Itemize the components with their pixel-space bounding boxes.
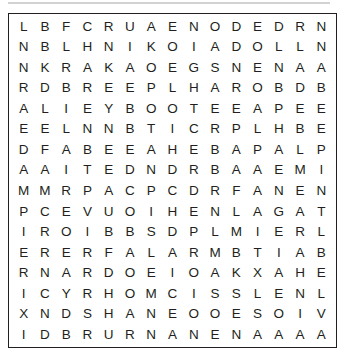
grid-cell[interactable]: H xyxy=(98,304,119,325)
grid-cell[interactable]: I xyxy=(13,222,34,243)
grid-cell[interactable]: T xyxy=(77,160,98,181)
grid-cell[interactable]: L xyxy=(56,37,77,58)
grid-cell[interactable]: B xyxy=(34,37,55,58)
grid-cell[interactable]: R xyxy=(77,263,98,284)
grid-cell[interactable]: B xyxy=(98,222,119,243)
grid-cell[interactable]: B xyxy=(289,119,310,140)
grid-cell[interactable]: S xyxy=(204,57,225,78)
grid-cell[interactable]: K xyxy=(34,57,55,78)
grid-cell[interactable]: X xyxy=(13,304,34,325)
grid-cell[interactable]: A xyxy=(77,57,98,78)
grid-cell[interactable]: B xyxy=(226,242,247,263)
grid-cell[interactable]: C xyxy=(77,16,98,37)
grid-cell[interactable]: U xyxy=(119,16,140,37)
grid-cell[interactable]: O xyxy=(162,37,183,58)
grid-cell[interactable]: E xyxy=(247,16,268,37)
grid-cell[interactable]: I xyxy=(289,304,310,325)
grid-cell[interactable]: T xyxy=(183,98,204,119)
grid-cell[interactable]: L xyxy=(247,119,268,140)
grid-cell[interactable]: B xyxy=(56,324,77,345)
grid-cell[interactable]: N xyxy=(77,119,98,140)
grid-cell[interactable]: A xyxy=(247,201,268,222)
grid-cell[interactable]: A xyxy=(289,57,310,78)
grid-cell[interactable]: R xyxy=(77,283,98,304)
grid-cell[interactable]: R xyxy=(13,263,34,284)
grid-cell[interactable]: A xyxy=(268,139,289,160)
grid-cell[interactable]: L xyxy=(268,37,289,58)
grid-cell[interactable]: R xyxy=(183,160,204,181)
grid-cell[interactable]: E xyxy=(162,304,183,325)
grid-cell[interactable]: N xyxy=(183,16,204,37)
grid-cell[interactable]: M xyxy=(34,181,55,202)
grid-cell[interactable]: O xyxy=(162,98,183,119)
grid-cell[interactable]: A xyxy=(204,263,225,284)
grid-cell[interactable]: A xyxy=(268,263,289,284)
grid-cell[interactable]: A xyxy=(289,242,310,263)
grid-cell[interactable]: S xyxy=(141,222,162,243)
grid-cell[interactable]: I xyxy=(119,37,140,58)
grid-cell[interactable]: E xyxy=(311,98,332,119)
grid-cell[interactable]: E xyxy=(204,324,225,345)
grid-cell[interactable]: F xyxy=(56,16,77,37)
grid-cell[interactable]: F xyxy=(98,242,119,263)
grid-cell[interactable]: A xyxy=(204,37,225,58)
grid-cell[interactable]: N xyxy=(311,181,332,202)
grid-cell[interactable]: C xyxy=(34,283,55,304)
grid-cell[interactable]: E xyxy=(34,119,55,140)
grid-cell[interactable]: H xyxy=(289,263,310,284)
grid-cell[interactable]: R xyxy=(183,242,204,263)
grid-cell[interactable]: P xyxy=(226,119,247,140)
grid-cell[interactable]: N xyxy=(141,160,162,181)
grid-cell[interactable]: M xyxy=(289,160,310,181)
grid-cell[interactable]: O xyxy=(204,16,225,37)
grid-cell[interactable]: P xyxy=(141,181,162,202)
grid-cell[interactable]: R xyxy=(34,242,55,263)
grid-cell[interactable]: E xyxy=(204,98,225,119)
grid-cell[interactable]: A xyxy=(119,304,140,325)
grid-cell[interactable]: N xyxy=(34,304,55,325)
grid-cell[interactable]: D xyxy=(34,324,55,345)
grid-cell[interactable]: I xyxy=(77,222,98,243)
grid-cell[interactable]: A xyxy=(311,57,332,78)
grid-cell[interactable]: C xyxy=(162,181,183,202)
grid-cell[interactable]: O xyxy=(247,37,268,58)
grid-cell[interactable]: B xyxy=(119,119,140,140)
grid-cell[interactable]: R xyxy=(77,242,98,263)
grid-cell[interactable]: D xyxy=(268,16,289,37)
grid-cell[interactable]: R xyxy=(13,78,34,99)
grid-cell[interactable]: T xyxy=(247,242,268,263)
grid-cell[interactable]: C xyxy=(119,181,140,202)
grid-cell[interactable]: E xyxy=(183,201,204,222)
grid-cell[interactable]: E xyxy=(268,222,289,243)
grid-cell[interactable]: C xyxy=(162,283,183,304)
grid-cell[interactable]: S xyxy=(204,283,225,304)
grid-cell[interactable]: A xyxy=(247,160,268,181)
grid-cell[interactable]: A xyxy=(141,139,162,160)
grid-cell[interactable]: L xyxy=(56,119,77,140)
grid-cell[interactable]: D xyxy=(56,304,77,325)
grid-cell[interactable]: N xyxy=(141,324,162,345)
grid-cell[interactable]: I xyxy=(56,98,77,119)
grid-cell[interactable]: T xyxy=(311,201,332,222)
grid-cell[interactable]: E xyxy=(162,16,183,37)
grid-cell[interactable]: I xyxy=(162,263,183,284)
grid-cell[interactable]: E xyxy=(311,119,332,140)
grid-cell[interactable]: N xyxy=(13,37,34,58)
grid-cell[interactable]: A xyxy=(34,160,55,181)
grid-cell[interactable]: A xyxy=(162,242,183,263)
grid-cell[interactable]: M xyxy=(13,181,34,202)
grid-cell[interactable]: E xyxy=(162,57,183,78)
grid-cell[interactable]: N xyxy=(311,37,332,58)
grid-cell[interactable]: E xyxy=(226,98,247,119)
grid-cell[interactable]: C xyxy=(183,119,204,140)
grid-cell[interactable]: E xyxy=(77,98,98,119)
grid-cell[interactable]: P xyxy=(13,201,34,222)
grid-cell[interactable]: E xyxy=(289,98,310,119)
grid-cell[interactable]: R xyxy=(119,324,140,345)
grid-cell[interactable]: S xyxy=(77,304,98,325)
grid-cell[interactable]: A xyxy=(247,324,268,345)
grid-cell[interactable]: O xyxy=(183,304,204,325)
grid-cell[interactable]: E xyxy=(268,283,289,304)
grid-cell[interactable]: M xyxy=(204,242,225,263)
grid-cell[interactable]: N xyxy=(13,57,34,78)
